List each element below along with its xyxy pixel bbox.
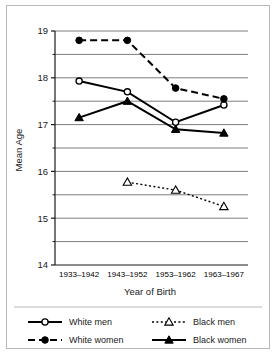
data-point-marker xyxy=(124,89,130,95)
y-axis-tick-label: 15 xyxy=(37,213,48,224)
legend-entry-white-men: White men xyxy=(28,317,112,327)
data-point-marker xyxy=(76,37,83,44)
legend-label: White women xyxy=(69,335,124,345)
series-white-women xyxy=(76,37,227,102)
line-chart: 141516171819 1933–19421943–19521953–1962… xyxy=(0,0,277,355)
data-point-marker xyxy=(42,319,48,325)
data-point-marker xyxy=(123,178,131,185)
x-axis-tick-label: 1953–1962 xyxy=(156,270,197,279)
series-black-women xyxy=(75,97,228,136)
y-axis-tick-label: 14 xyxy=(37,259,48,270)
x-axis-tick-labels: 1933–19421943–19521953–19621963–1967 xyxy=(59,270,244,279)
data-point-marker xyxy=(124,37,131,44)
series-line xyxy=(79,40,224,99)
x-axis-tick-label: 1933–1942 xyxy=(59,270,100,279)
legend-label: Black men xyxy=(193,317,235,327)
legend-entry-black-men: Black men xyxy=(152,317,235,327)
chart-legend: White menBlack menWhite womenBlack women xyxy=(28,317,247,345)
legend-entry-white-women: White women xyxy=(28,335,124,345)
x-axis-tick-label: 1943–1952 xyxy=(107,270,148,279)
x-axis-tick-label: 1963–1967 xyxy=(204,270,245,279)
y-axis-tick-label: 16 xyxy=(37,166,48,177)
data-point-marker xyxy=(172,85,179,92)
data-point-marker xyxy=(123,97,131,104)
legend-entry-black-women: Black women xyxy=(152,335,247,345)
y-axis-tick-label: 19 xyxy=(37,25,48,36)
chart-figure: 141516171819 1933–19421943–19521953–1962… xyxy=(0,0,277,355)
data-point-marker xyxy=(221,102,227,108)
y-axis-tick-label: 17 xyxy=(37,119,48,130)
legend-label: Black women xyxy=(193,335,247,345)
x-axis-title: Year of Birth xyxy=(124,286,176,297)
legend-label: White men xyxy=(69,317,112,327)
series-black-men xyxy=(123,178,228,210)
y-axis-title: Mean Age xyxy=(13,129,24,172)
data-point-marker xyxy=(221,96,228,103)
data-point-marker xyxy=(42,337,49,344)
y-axis-tick-labels: 141516171819 xyxy=(37,25,48,270)
data-series xyxy=(75,37,228,210)
y-axis-tick-label: 18 xyxy=(37,72,48,83)
data-point-marker xyxy=(76,78,82,84)
